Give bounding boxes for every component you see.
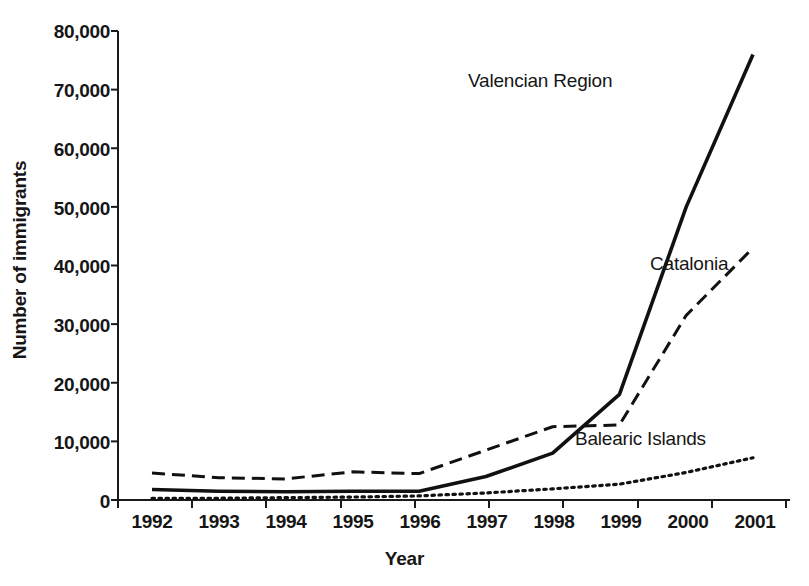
plot-area [0,0,809,586]
y-axis-ticks [111,31,118,500]
series-label-balearic-islands: Balearic Islands [575,428,706,450]
series-label-valencian-region: Valencian Region [468,70,612,92]
series-label-catalonia: Catalonia [650,253,728,275]
x-axis-ticks [118,500,786,508]
chart-figure: Number of immigrants 80,000 70,000 60,00… [0,0,809,586]
